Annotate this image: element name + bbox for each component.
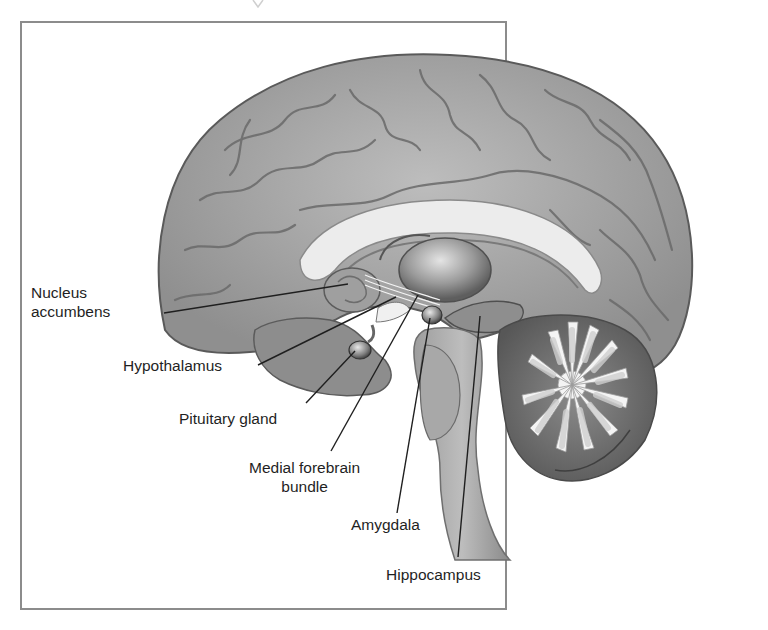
label-line: bundle — [249, 477, 360, 496]
label-pituitary-gland: Pituitary gland — [179, 409, 277, 428]
label-nucleus-accumbens: Nucleus accumbens — [31, 283, 110, 321]
label-hippocampus: Hippocampus — [386, 565, 481, 584]
label-line: Amygdala — [351, 515, 420, 534]
label-medial-forebrain-bundle: Medial forebrain bundle — [249, 458, 360, 496]
cerebellum — [498, 315, 657, 481]
amygdala-structure — [422, 306, 442, 324]
label-line: Hypothalamus — [123, 356, 222, 375]
label-line: Pituitary gland — [179, 409, 277, 428]
label-hypothalamus: Hypothalamus — [123, 356, 222, 375]
label-line: Hippocampus — [386, 565, 481, 584]
label-line: Nucleus — [31, 283, 110, 302]
brain-illustration — [0, 0, 768, 630]
label-line: accumbens — [31, 302, 110, 321]
label-amygdala: Amygdala — [351, 515, 420, 534]
pituitary-structure — [349, 341, 371, 359]
thalamus — [399, 238, 491, 302]
nucleus-accumbens-structure — [324, 268, 380, 312]
label-line: Medial forebrain — [249, 458, 360, 477]
